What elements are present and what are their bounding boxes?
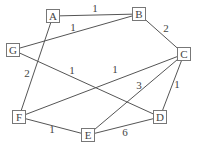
edge-weight-label: 1 <box>92 2 98 14</box>
node-e: E <box>82 129 95 142</box>
edge-weight-label: 1 <box>69 64 75 76</box>
graph-svg: 1122113116 ABCGFED <box>0 0 198 151</box>
edge-weight-label: 1 <box>49 123 55 135</box>
node-c: C <box>178 48 191 61</box>
node-d: D <box>154 111 167 124</box>
weighted-graph-diagram: 1122113116 ABCGFED <box>0 0 198 151</box>
node-label: A <box>49 10 57 22</box>
node-label: G <box>9 44 17 56</box>
edge-weight-label: 3 <box>136 79 142 91</box>
edge-d-c <box>160 54 184 117</box>
node-label: C <box>180 48 187 60</box>
node-g: G <box>7 44 20 57</box>
node-label: F <box>16 111 22 123</box>
edge-weight-label: 6 <box>122 126 128 138</box>
edge-a-b <box>53 14 139 16</box>
edge-f-c <box>19 54 184 117</box>
node-label: D <box>156 111 164 123</box>
edge-weight-label: 1 <box>174 78 180 90</box>
node-f: F <box>13 111 26 124</box>
edge-weight-label: 1 <box>112 63 118 75</box>
node-b: B <box>133 8 146 21</box>
node-label: B <box>135 8 142 20</box>
node-a: A <box>47 10 60 23</box>
edge-weight-label: 2 <box>24 67 30 79</box>
edge-weight-label: 2 <box>163 22 169 34</box>
edge-weight-label: 1 <box>70 21 76 33</box>
node-label: E <box>85 129 92 141</box>
edge-g-b <box>13 14 139 50</box>
